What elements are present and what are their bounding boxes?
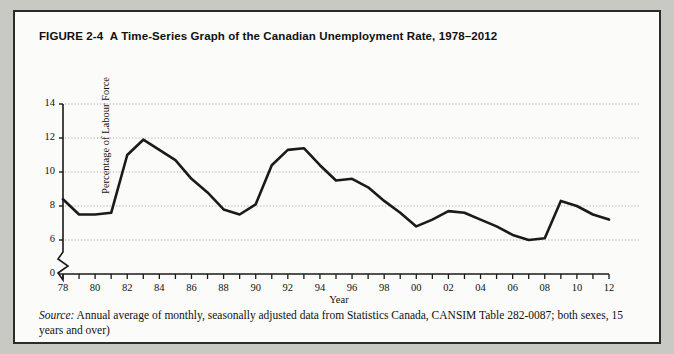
x-axis-tick-label: 80 [80,282,110,293]
source-note: Source: Annual average of monthly, seaso… [39,308,641,337]
x-axis-tick-label: 06 [498,282,528,293]
x-axis-tick-label: 04 [466,282,496,293]
x-axis-tick-label: 82 [112,282,142,293]
time-series-line-chart [39,52,639,307]
x-axis-tick-label: 02 [433,282,463,293]
x-axis-tick-label: 88 [209,282,239,293]
y-axis-line [58,104,68,280]
x-axis-tick-label: 78 [48,282,78,293]
x-axis-tick-label: 12 [594,282,624,293]
y-axis-tick-label: 8 [29,199,55,210]
x-axis-tick-label: 08 [530,282,560,293]
y-axis-tick-label: 0 [29,267,55,278]
x-axis-tick-label: 98 [369,282,399,293]
source-text: Annual average of monthly, seasonally ad… [39,309,623,336]
x-axis-tick-label: 00 [401,282,431,293]
x-axis-tick-label: 90 [241,282,271,293]
y-axis-tick-label: 12 [29,131,55,142]
x-axis-tick-label: 86 [176,282,206,293]
y-axis-tick-label: 14 [29,97,55,108]
figure-container: FIGURE 2-4 A Time-Series Graph of the Ca… [13,10,661,344]
y-axis-tick-label: 6 [29,233,55,244]
x-axis-tick-label: 96 [337,282,367,293]
figure-number: FIGURE 2-4 [39,30,103,42]
x-axis-tick-label: 92 [273,282,303,293]
x-axis-tick-label: 10 [562,282,592,293]
y-axis-tick-label: 10 [29,165,55,176]
chart-plot-area: Percentage of Labour Force Year 06810121… [39,52,639,307]
figure-title-text: A Time-Series Graph of the Canadian Unem… [110,30,497,42]
x-axis-tick-label: 84 [144,282,174,293]
source-label: Source: [39,309,74,321]
unemployment-rate-line [63,140,609,240]
x-axis-tick-label: 94 [305,282,335,293]
figure-title: FIGURE 2-4 A Time-Series Graph of the Ca… [39,30,497,42]
